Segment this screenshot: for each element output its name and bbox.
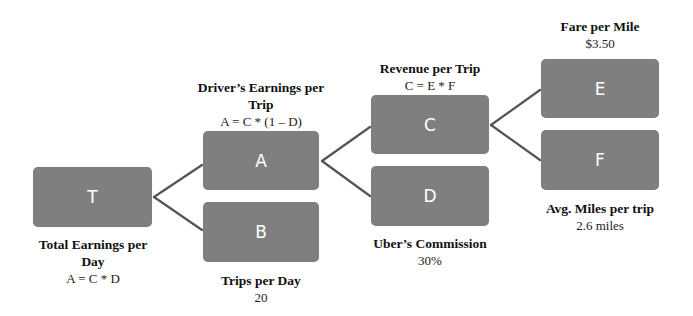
node-t-letter: T — [87, 187, 97, 207]
node-t-title-line2: Day — [22, 253, 164, 270]
node-c: C — [371, 95, 489, 154]
node-e: E — [541, 59, 659, 118]
node-e-title: Fare per Mile — [524, 18, 676, 35]
node-f-title: Avg. Miles per trip — [524, 200, 676, 217]
node-a-formula: A = C * (1 – D) — [185, 113, 337, 130]
node-c-title: Revenue per Trip — [354, 60, 506, 77]
node-c-formula: C = E * F — [354, 77, 506, 94]
node-a: A — [203, 131, 319, 190]
node-t-title-line1: Total Earnings per — [22, 236, 164, 253]
node-a-title-line1: Driver’s Earnings per — [185, 79, 337, 96]
connector-t-a — [154, 165, 202, 197]
node-b: B — [203, 202, 319, 262]
node-a-title-line2: Trip — [185, 96, 337, 113]
node-a-caption: Driver’s Earnings per Trip A = C * (1 – … — [185, 79, 337, 130]
node-d-letter: D — [423, 186, 436, 206]
node-d-title: Uber’s Commission — [354, 235, 506, 252]
node-c-caption: Revenue per Trip C = E * F — [354, 60, 506, 94]
node-d: D — [371, 166, 489, 226]
node-d-value: 30% — [354, 252, 506, 269]
connector-a-d — [322, 161, 370, 196]
node-f-letter: F — [595, 150, 605, 170]
connector-c-f — [491, 125, 540, 160]
node-t-caption: Total Earnings per Day A = C * D — [22, 236, 164, 287]
node-e-value: $3.50 — [524, 35, 676, 52]
node-c-letter: C — [424, 115, 436, 135]
node-t-formula: A = C * D — [22, 270, 164, 287]
node-f-value: 2.6 miles — [524, 217, 676, 234]
node-b-title: Trips per Day — [185, 272, 337, 289]
node-f-caption: Avg. Miles per trip 2.6 miles — [524, 200, 676, 234]
node-t: T — [33, 167, 152, 227]
node-e-caption: Fare per Mile $3.50 — [524, 18, 676, 52]
node-b-caption: Trips per Day 20 — [185, 272, 337, 306]
connector-t-b — [154, 197, 202, 230]
connector-a-c — [322, 127, 370, 161]
node-d-caption: Uber’s Commission 30% — [354, 235, 506, 269]
node-e-letter: E — [595, 79, 606, 99]
node-a-letter: A — [255, 151, 267, 171]
node-f: F — [541, 130, 659, 190]
driver-tree-diagram: T Total Earnings per Day A = C * D Drive… — [0, 0, 693, 316]
connector-c-e — [491, 90, 540, 125]
node-b-value: 20 — [185, 289, 337, 306]
node-b-letter: B — [255, 222, 267, 242]
